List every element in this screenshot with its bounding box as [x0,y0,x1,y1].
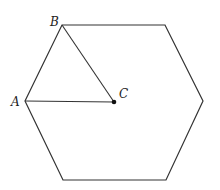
label-c: C [119,87,128,101]
label-a: A [10,95,20,109]
center-point [112,100,117,105]
segment-ac [25,101,114,102]
label-b: B [49,15,59,29]
segment-bc [62,25,114,102]
hexagon-diagram: A B C [0,0,220,190]
